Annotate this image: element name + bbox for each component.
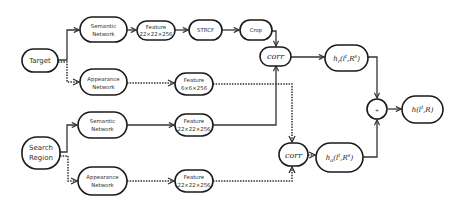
appearance-network-top-node: Appearance Network [80, 69, 127, 95]
semantic-network-top-node: Semantic Network [80, 17, 127, 42]
semantic-feature-bottom-node: Feature 22×22×256 [175, 114, 213, 136]
semantic-feature-top-line2: 22×22×256 [139, 31, 173, 37]
semantic-feature-top-node: Feature 22×22×256 [137, 21, 175, 40]
tracking-framework-diagram: Target Search Region Semantic Network Fe… [0, 0, 462, 206]
sum-node: + [367, 99, 387, 119]
appearance-feature-top-line1: Feature [184, 77, 205, 83]
appearance-feature-bottom-node: Feature 22×22×256 [175, 170, 213, 192]
search-region-label-line2: Region [29, 154, 53, 162]
edge-h-appearance-to-plus [363, 120, 377, 157]
semantic-feature-bottom-line1: Feature [184, 118, 205, 124]
output-node: h(lt,R) [402, 96, 443, 123]
edge-h-semantic-to-plus [368, 57, 377, 98]
semantic-network-top-line1: Semantic [91, 23, 116, 29]
appearance-network-bottom-line1: Appearance [86, 174, 119, 181]
edge-search-to-appearance-bottom [60, 156, 77, 181]
search-region-label-line1: Search [29, 144, 53, 152]
edge-feature-mid-to-corr-top [213, 66, 276, 125]
edge-target-to-semantic-top [58, 30, 79, 60]
appearance-network-top-line2: Network [92, 84, 115, 90]
edge-search-to-semantic-bottom [60, 125, 77, 152]
h-semantic-node: hr(lt,Rs) [325, 45, 368, 71]
semantic-feature-bottom-line2: 22×22×256 [177, 126, 211, 132]
edge-feature6-to-corr-bottom [213, 84, 292, 142]
semantic-network-bottom-line2: Network [91, 126, 114, 132]
semantic-network-bottom-line1: Semantic [90, 118, 115, 124]
appearance-feature-top-node: Feature 6×6×256 [175, 73, 213, 95]
h-appearance-node: ha(lt,Rs) [316, 143, 363, 172]
plus-label: + [375, 107, 380, 113]
edge-crop-to-corr-top [272, 31, 276, 46]
semantic-network-bottom-node: Semantic Network [78, 112, 127, 138]
appearance-feature-bottom-line2: 22×22×256 [177, 182, 211, 188]
appearance-feature-top-line2: 6×6×256 [181, 85, 208, 91]
edge-feature-bottom-to-corr-bottom [213, 167, 292, 181]
corr-top-node: corr [260, 47, 291, 66]
corr-top-label: corr [267, 52, 285, 61]
target-label: Target [28, 57, 51, 65]
crop-label: Crop [250, 27, 263, 34]
crop-node: Crop [240, 20, 272, 40]
search-region-node: Search Region [22, 137, 60, 169]
target-node: Target [22, 49, 58, 72]
semantic-feature-top-line1: Feature [146, 24, 167, 30]
strcf-label: STRCF [197, 27, 214, 33]
edge-target-to-appearance-top [58, 62, 79, 82]
appearance-network-bottom-node: Appearance Network [78, 167, 127, 195]
appearance-feature-bottom-line1: Feature [184, 174, 205, 180]
output-label: h(lt,R) [412, 104, 434, 114]
appearance-network-top-line1: Appearance [87, 76, 120, 83]
corr-bottom-label: corr [285, 151, 303, 160]
appearance-network-bottom-line2: Network [91, 182, 114, 188]
semantic-network-top-line2: Network [92, 31, 115, 37]
corr-bottom-node: corr [279, 143, 308, 166]
strcf-node: STRCF [189, 20, 222, 40]
